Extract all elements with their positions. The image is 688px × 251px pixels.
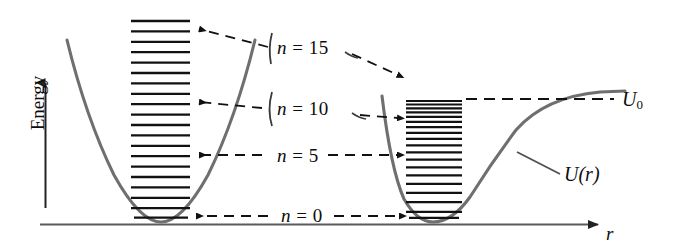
equals-sign: = bbox=[292, 37, 303, 58]
n-symbol: n bbox=[277, 145, 287, 166]
u0-symbol: U bbox=[622, 88, 636, 110]
level-value: 0 bbox=[313, 205, 323, 226]
harmonic-potential-curve bbox=[67, 40, 255, 222]
level-value: 10 bbox=[309, 98, 329, 119]
level-value: 15 bbox=[309, 37, 329, 58]
level-label-n15: n = 15 bbox=[277, 38, 329, 57]
u-of-r-leader-line bbox=[517, 152, 560, 174]
diagram-canvas bbox=[0, 0, 688, 251]
u-of-r-label: U(r) bbox=[564, 164, 600, 184]
n-symbol: n bbox=[281, 205, 291, 226]
n-symbol: n bbox=[277, 37, 287, 58]
n10-tick-mark bbox=[270, 92, 273, 126]
n15-leader-left bbox=[199, 29, 268, 47]
morse-level-group bbox=[406, 101, 462, 218]
level-label-n5: n = 5 bbox=[277, 146, 319, 165]
n10-leader-left bbox=[199, 102, 262, 108]
n10-leader-right bbox=[360, 115, 398, 118]
equals-sign: = bbox=[292, 98, 303, 119]
harmonic-level-group bbox=[131, 21, 190, 218]
level-label-n0: n = 0 bbox=[281, 206, 323, 225]
u0-label: U0 bbox=[622, 89, 643, 109]
n15-leader-right bbox=[352, 54, 398, 75]
n15-tick-mark bbox=[270, 33, 272, 64]
energy-level-diagram: Energy r n = 15 n = 10 n = 5 n = 0 U0 U(… bbox=[0, 0, 688, 251]
equals-sign: = bbox=[292, 145, 303, 166]
r-axis-label: r bbox=[606, 224, 613, 243]
level-label-n10: n = 10 bbox=[277, 99, 329, 118]
level-value: 5 bbox=[309, 145, 319, 166]
u0-subscript: 0 bbox=[636, 97, 643, 112]
equals-sign: = bbox=[296, 205, 307, 226]
energy-axis-label: Energy bbox=[27, 58, 49, 148]
n-symbol: n bbox=[277, 98, 287, 119]
